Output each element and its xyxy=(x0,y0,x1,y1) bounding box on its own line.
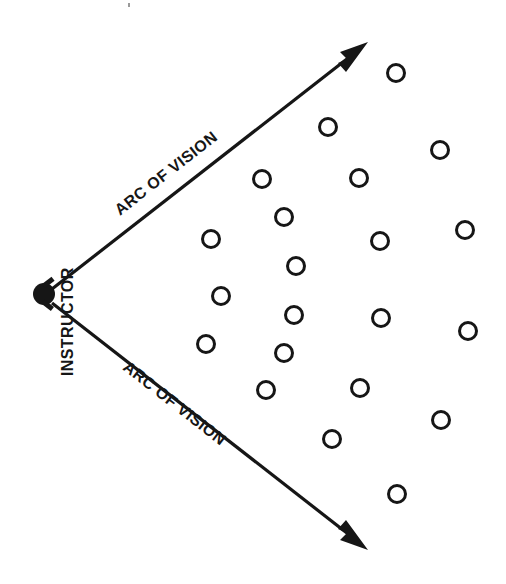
arc-of-vision-diagram: ARC OF VISION ARC OF VISION INSTRUCTOR xyxy=(0,0,506,584)
scan-speck xyxy=(128,3,130,7)
student-circle xyxy=(320,119,337,136)
student-circle xyxy=(258,382,275,399)
arc-upper-arrowhead xyxy=(338,42,368,72)
arc-upper-line xyxy=(52,55,352,289)
instructor-marker: INSTRUCTOR xyxy=(33,267,76,376)
student-circle xyxy=(203,231,220,248)
student-circle xyxy=(433,412,450,429)
student-circle xyxy=(276,345,293,362)
arc-lower-label: ARC OF VISION xyxy=(120,358,229,448)
student-circle xyxy=(286,307,303,324)
student-circle xyxy=(351,170,368,187)
student-circle xyxy=(276,209,293,226)
student-circle xyxy=(254,171,271,188)
instructor-label: INSTRUCTOR xyxy=(59,267,76,376)
student-circle xyxy=(213,288,230,305)
student-circle xyxy=(288,258,305,275)
student-circle xyxy=(457,222,474,239)
student-circle xyxy=(388,65,405,82)
student-circle xyxy=(198,336,215,353)
arc-upper-label: ARC OF VISION xyxy=(111,128,220,218)
student-circle xyxy=(389,486,406,503)
student-circle xyxy=(432,142,449,159)
arc-of-vision-upper: ARC OF VISION xyxy=(52,42,368,289)
arc-lower-arrowhead xyxy=(338,520,368,550)
student-circle-group xyxy=(198,65,477,503)
student-circle xyxy=(373,310,390,327)
diagram-canvas: ARC OF VISION ARC OF VISION INSTRUCTOR xyxy=(0,0,506,584)
student-circle xyxy=(460,323,477,340)
student-circle xyxy=(324,431,341,448)
student-circle xyxy=(352,380,369,397)
arc-of-vision-lower: ARC OF VISION xyxy=(52,303,368,550)
student-circle xyxy=(372,233,389,250)
